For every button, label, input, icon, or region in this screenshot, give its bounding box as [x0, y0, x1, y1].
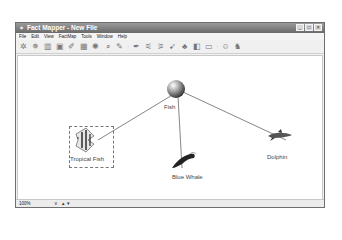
search-icon[interactable]: ⌕ — [103, 42, 112, 51]
zoom-out-arrow-icon[interactable]: ▼ — [66, 200, 70, 207]
menu-bar: File Edit View FactMap Tools Window Help — [16, 33, 324, 40]
help-icon[interactable]: ☺ — [221, 42, 230, 51]
monitor-icon[interactable]: ▭ — [204, 42, 213, 51]
blue-whale-icon — [172, 153, 196, 169]
app-window: ✶ Fact Mapper - New File _ □ ✕ File Edit… — [15, 22, 325, 208]
menu-help[interactable]: Help — [118, 33, 127, 40]
status-bar: 100% ∨ ▲ ▼ — [16, 199, 324, 207]
paint-icon[interactable]: ✐ — [67, 42, 76, 51]
connection-lines — [18, 56, 326, 202]
close-button[interactable]: ✕ — [314, 24, 322, 31]
node-label-dolphin[interactable]: Dolphin — [267, 154, 287, 160]
window-title: Fact Mapper - New File — [27, 24, 97, 32]
new-node-icon[interactable]: ✲ — [19, 42, 28, 51]
dropdown-arrow-icon[interactable]: · — [216, 42, 218, 51]
link-blue-whale — [178, 96, 182, 168]
menu-window[interactable]: Window — [97, 33, 113, 40]
grid-icon[interactable]: ▦ — [79, 42, 88, 51]
dropdown-arrow-icon[interactable]: · — [127, 42, 129, 51]
people-icon[interactable]: ♣ — [180, 42, 189, 51]
map-canvas[interactable]: Fish Tropical Fish Blue Whale Dolphin — [17, 55, 323, 201]
maximize-button[interactable]: □ — [305, 24, 313, 31]
zoom-in-arrow-icon[interactable]: ▲ — [61, 200, 65, 207]
zoom-level[interactable]: 100% — [19, 200, 31, 207]
disconnect-icon[interactable]: ⚞ — [156, 42, 165, 51]
node-label-tropical-fish[interactable]: Tropical Fish — [70, 156, 104, 162]
book-icon[interactable]: ◧ — [192, 42, 201, 51]
title-bar[interactable]: ✶ Fact Mapper - New File _ □ ✕ — [16, 23, 324, 33]
node-label-fish[interactable]: Fish — [164, 104, 175, 110]
cluster-icon[interactable]: ✵ — [31, 42, 40, 51]
menu-factmap[interactable]: FactMap — [59, 33, 77, 40]
users-icon[interactable]: ♞ — [233, 42, 242, 51]
settings-icon[interactable]: ✺ — [91, 42, 100, 51]
node-label-blue-whale[interactable]: Blue Whale — [172, 174, 203, 180]
toolbar: ✲ ✵ ▥ ▣ ✐ ▦ ✺ ⌕ ✎ · ✒ ⚟ ⚞ ➹ ♣ ◧ ▭ · ☺ ♞ — [16, 40, 324, 54]
app-icon: ✶ — [19, 25, 25, 31]
arrow-icon[interactable]: ➹ — [168, 42, 177, 51]
menu-view[interactable]: View — [44, 33, 54, 40]
pen-icon[interactable]: ✎ — [115, 42, 124, 51]
fish-sphere-icon — [167, 80, 185, 98]
menu-edit[interactable]: Edit — [31, 33, 39, 40]
dolphin-icon — [268, 129, 292, 141]
minimize-button[interactable]: _ — [296, 24, 304, 31]
menu-file[interactable]: File — [19, 33, 26, 40]
link-dolphin — [183, 92, 286, 140]
brush-icon[interactable]: ✒ — [132, 42, 141, 51]
connect-icon[interactable]: ⚟ — [144, 42, 153, 51]
image-icon[interactable]: ▣ — [55, 42, 64, 51]
zoom-dropdown-icon[interactable]: ∨ — [54, 200, 58, 207]
menu-tools[interactable]: Tools — [81, 33, 92, 40]
chart-icon[interactable]: ▥ — [43, 42, 52, 51]
